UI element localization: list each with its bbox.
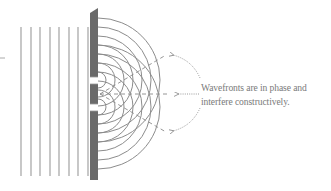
barrier-bottom-segment: [90, 111, 98, 180]
interference-rays: [100, 55, 170, 132]
annotation-arrows: [173, 55, 200, 131]
caption-line-2: interfere constructively.: [201, 95, 307, 109]
barrier-top-segment: [90, 8, 98, 77]
caption: Wavefronts are in phase and interfere co…: [201, 81, 307, 109]
barrier: [90, 8, 98, 180]
barrier-middle-segment: [90, 84, 98, 104]
plane-wavefronts: [21, 27, 88, 176]
arrow-up: [173, 55, 200, 78]
caption-line-1: Wavefronts are in phase and: [201, 81, 307, 95]
arrow-down: [173, 108, 200, 131]
